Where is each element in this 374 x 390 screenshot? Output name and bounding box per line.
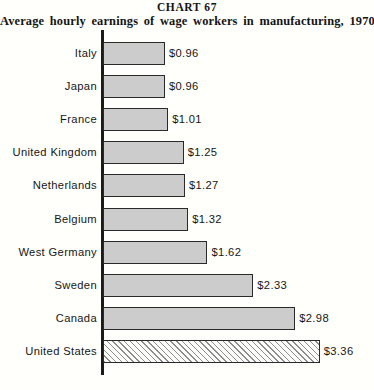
- bar-value-label: $1.62: [211, 241, 241, 264]
- chart-number: CHART 67: [0, 0, 374, 14]
- bar-category-label: Canada: [56, 307, 97, 330]
- bar-value-label: $3.36: [324, 340, 354, 363]
- bar-row: Sweden$2.33: [0, 274, 374, 297]
- bar-france: [103, 108, 168, 131]
- bar-united-states: [103, 340, 320, 363]
- bar-row: United Kingdom$1.25: [0, 141, 374, 164]
- bar-value-label: $0.96: [169, 42, 199, 65]
- bar-category-label: Belgium: [54, 208, 97, 231]
- bar-category-label: Sweden: [54, 274, 97, 297]
- bar-category-label: United Kingdom: [12, 141, 97, 164]
- bar-value-label: $1.27: [189, 174, 219, 197]
- bar-row: Canada$2.98: [0, 307, 374, 330]
- bar-italy: [103, 42, 165, 65]
- chart-subtitle: Average hourly earnings of wage workers …: [0, 14, 374, 29]
- bar-row: Belgium$1.32: [0, 208, 374, 231]
- bar-canada: [103, 307, 295, 330]
- bar-sweden: [103, 274, 253, 297]
- bar-netherlands: [103, 174, 185, 197]
- bar-japan: [103, 75, 165, 98]
- bar-category-label: Netherlands: [33, 174, 97, 197]
- bar-value-label: $1.25: [188, 141, 218, 164]
- bar-value-label: $2.98: [299, 307, 329, 330]
- bar-row: France$1.01: [0, 108, 374, 131]
- bar-value-label: $2.33: [257, 274, 287, 297]
- bar-category-label: Italy: [75, 42, 97, 65]
- bar-value-label: $0.96: [169, 75, 199, 98]
- bar-row: Japan$0.96: [0, 75, 374, 98]
- bar-category-label: United States: [25, 340, 97, 363]
- bar-west-germany: [103, 241, 207, 264]
- bar-row: Italy$0.96: [0, 42, 374, 65]
- bar-category-label: Japan: [65, 75, 97, 98]
- bar-category-label: France: [60, 108, 97, 131]
- bar-row: United States$3.36: [0, 340, 374, 363]
- bar-row: Netherlands$1.27: [0, 174, 374, 197]
- bar-united-kingdom: [103, 141, 184, 164]
- bar-value-label: $1.01: [172, 108, 202, 131]
- bar-category-label: West Germany: [18, 241, 97, 264]
- bar-row: West Germany$1.62: [0, 241, 374, 264]
- chart-header: CHART 67 Average hourly earnings of wage…: [0, 0, 374, 29]
- bar-chart-plot-area: Italy$0.96Japan$0.96France$1.01United Ki…: [0, 30, 374, 378]
- bar-belgium: [103, 208, 188, 231]
- bar-value-label: $1.32: [192, 208, 222, 231]
